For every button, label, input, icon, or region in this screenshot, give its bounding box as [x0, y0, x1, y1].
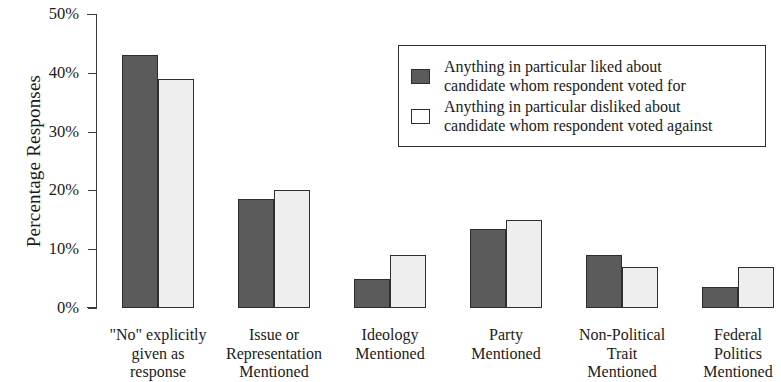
bar-group — [238, 14, 310, 308]
legend: Anything in particular liked about candi… — [398, 45, 766, 147]
x-axis-category-label-line: Mentioned — [703, 363, 772, 380]
x-axis-category-label-line: Non-Political — [579, 326, 665, 343]
y-axis-tick: 40% — [88, 73, 97, 74]
x-axis-category-label: FederalPoliticsMentioned — [674, 326, 781, 382]
y-axis-tick-label: 20% — [49, 180, 79, 200]
x-axis-category-label-line: Mentioned — [239, 363, 308, 380]
y-axis-spine — [96, 14, 97, 308]
y-axis-tick: 0% — [88, 308, 97, 309]
y-axis-tick-label: 10% — [49, 239, 79, 259]
bar-liked — [702, 287, 738, 308]
x-axis-category-label-line: Representation — [226, 345, 322, 362]
y-axis-tick: 30% — [88, 132, 97, 133]
x-axis-category-label-line: Party — [489, 326, 523, 343]
legend-label-disliked-line1: Anything in particular disliked about — [444, 98, 680, 115]
x-axis-category-label: "No" explicitlygiven asresponse — [94, 326, 222, 382]
y-axis-tick-label: 0% — [57, 298, 79, 318]
y-axis-tick-label: 40% — [49, 63, 79, 83]
bar-liked — [586, 255, 622, 308]
legend-item-disliked: Anything in particular disliked about ca… — [411, 97, 755, 135]
legend-label-liked: Anything in particular liked about candi… — [444, 57, 686, 95]
bar-disliked — [274, 190, 310, 308]
y-axis-tick: 20% — [88, 190, 97, 191]
x-axis-category-label-line: Politics — [714, 345, 762, 362]
bar-disliked — [390, 255, 426, 308]
x-axis-category-label-line: given as — [132, 345, 185, 362]
x-axis-category-label-line: Ideology — [362, 326, 419, 343]
x-axis-category-label-line: Federal — [714, 326, 762, 343]
bar-disliked — [622, 267, 658, 308]
legend-label-liked-line2: candidate whom respondent voted for — [444, 77, 686, 94]
x-axis-category-label-line: Trait — [607, 345, 638, 362]
legend-swatch-disliked-icon — [411, 109, 430, 124]
x-axis-category-label: Issue orRepresentationMentioned — [210, 326, 338, 382]
x-axis-category-label-line: "No" explicitly — [109, 326, 206, 343]
y-axis-tick-label: 50% — [49, 4, 79, 24]
y-axis-label: Percentage Responses — [23, 31, 45, 291]
legend-label-liked-line1: Anything in particular liked about — [444, 58, 662, 75]
bar-liked — [354, 279, 390, 308]
legend-label-disliked: Anything in particular disliked about ca… — [444, 97, 712, 135]
bar-disliked — [506, 220, 542, 308]
bar-liked — [122, 55, 158, 308]
bar-group — [122, 14, 194, 308]
x-axis-category-label-line: Mentioned — [471, 345, 540, 362]
x-axis-category-label-line: Mentioned — [587, 363, 656, 380]
x-axis-category-label: IdeologyMentioned — [326, 326, 454, 363]
x-axis-category-label-line: response — [130, 363, 186, 380]
x-axis-category-label: PartyMentioned — [442, 326, 570, 363]
y-axis-tick-label: 30% — [49, 122, 79, 142]
bar-disliked — [158, 79, 194, 308]
y-axis-tick: 50% — [88, 14, 97, 15]
legend-swatch-liked-icon — [411, 69, 430, 84]
x-axis-category-label-line: Issue or — [249, 326, 299, 343]
bar-liked — [470, 229, 506, 308]
x-axis-category-label: Non-PoliticalTraitMentioned — [558, 326, 686, 382]
bar-liked — [238, 199, 274, 308]
bar-disliked — [738, 267, 774, 308]
y-axis-tick: 10% — [88, 249, 97, 250]
x-axis-category-label-line: Mentioned — [355, 345, 424, 362]
legend-label-disliked-line2: candidate whom respondent voted against — [444, 117, 712, 134]
legend-item-liked: Anything in particular liked about candi… — [411, 57, 755, 95]
